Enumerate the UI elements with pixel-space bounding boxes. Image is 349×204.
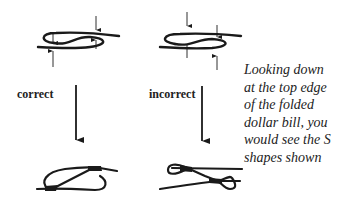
caption-line: at the top edge xyxy=(244,79,349,97)
s-shape-incorrect-top xyxy=(160,34,241,49)
caption-line: shapes shown xyxy=(244,149,349,167)
caption-line: of the folded xyxy=(244,96,349,114)
s-shape-correct-top xyxy=(38,33,119,49)
result-shape-incorrect xyxy=(160,165,242,189)
label-correct: correct xyxy=(17,87,53,102)
caption-line: dollar bill, you xyxy=(244,114,349,132)
label-incorrect: incorrect xyxy=(149,87,195,102)
caption-line: Looking down xyxy=(244,61,349,79)
caption: Looking down at the top edge of the fold… xyxy=(244,61,349,166)
pressure-arrows-correct xyxy=(53,16,96,67)
caption-line: would see the S xyxy=(244,131,349,149)
